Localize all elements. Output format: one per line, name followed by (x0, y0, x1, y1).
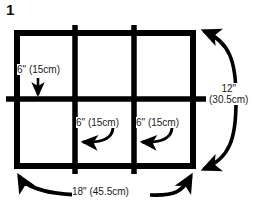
curved-arrow-left-right-icon (142, 128, 172, 142)
dimension-label-height-inches: 12" (209, 83, 248, 94)
dimension-label-cell-left: 6" (15cm) (17, 64, 60, 75)
dimension-label-cell-middle: 6" (15cm) (76, 117, 119, 128)
dimension-label-width: 18" (45.5cm) (72, 186, 129, 197)
diagram-canvas: 1 (0, 0, 259, 210)
curved-arrow-left-middle-icon (83, 128, 113, 142)
dimension-label-cell-right: 6" (15cm) (136, 117, 179, 128)
dimension-label-height-cm: (30.5cm) (209, 94, 248, 105)
dimension-label-height: 12" (30.5cm) (209, 83, 248, 105)
